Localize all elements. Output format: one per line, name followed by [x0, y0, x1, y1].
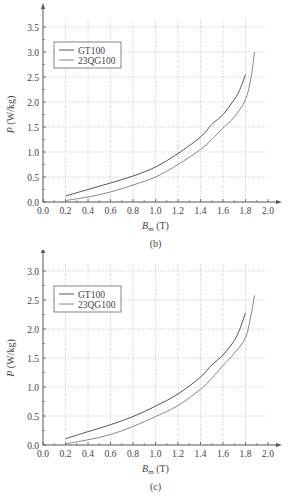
y-axis-label: P (W/kg) — [5, 96, 17, 135]
y-axis-label-unit: (W/kg) — [5, 339, 17, 370]
legend-label: GT100 — [78, 290, 105, 300]
x-tick-label: 0.0 — [37, 206, 49, 216]
x-tick-label: 1.0 — [150, 206, 162, 216]
x-axis-label-unit: (T) — [154, 463, 169, 475]
y-axis-label-symbol: P — [5, 127, 16, 134]
chart-panel-c: 0.00.20.40.60.81.01.21.41.61.82.00.00.51… — [0, 250, 294, 500]
x-tick-label: 1.2 — [172, 449, 184, 459]
chart-b-canvas: 0.00.20.40.60.81.01.21.41.61.82.00.00.51… — [0, 0, 294, 250]
x-tick-label: 1.6 — [217, 449, 229, 459]
y-tick-label: 0.0 — [27, 441, 39, 451]
x-axis-arrow-icon — [276, 200, 282, 204]
legend-label: 23QG100 — [78, 56, 116, 66]
legend: GT10023QG100 — [54, 286, 121, 312]
x-tick-label: 1.6 — [217, 206, 229, 216]
y-tick-label: 2.5 — [27, 296, 39, 306]
x-tick-label: 1.4 — [195, 206, 207, 216]
legend-label: GT100 — [78, 46, 105, 56]
x-tick-label: 0.6 — [105, 449, 117, 459]
x-tick-label: 1.8 — [240, 206, 252, 216]
x-tick-label: 0.0 — [37, 449, 49, 459]
x-tick-label: 2.0 — [262, 206, 274, 216]
x-tick-label: 0.4 — [82, 206, 94, 216]
x-tick-label: 1.0 — [150, 449, 162, 459]
chart-c-canvas: 0.00.20.40.60.81.01.21.41.61.82.00.00.51… — [0, 250, 294, 500]
y-axis-label-symbol: P — [5, 371, 16, 378]
y-axis-arrow-icon — [41, 3, 45, 9]
x-tick-label: 0.8 — [127, 206, 139, 216]
series-line-gt100 — [66, 75, 246, 197]
y-tick-label: 3.0 — [27, 267, 39, 277]
x-axis-label: Bm (T) — [142, 220, 169, 233]
y-tick-label: 3.0 — [27, 48, 39, 58]
y-tick-label: 0.5 — [27, 412, 39, 422]
y-tick-label: 2.0 — [27, 325, 39, 335]
x-tick-label: 1.8 — [240, 449, 252, 459]
y-tick-label: 1.5 — [27, 354, 39, 364]
legend-label: 23QG100 — [78, 300, 116, 310]
y-axis-label-unit: (W/kg) — [5, 96, 17, 127]
series-line-23qg100 — [66, 52, 255, 201]
legend: GT10023QG100 — [54, 42, 121, 68]
x-tick-label: 0.2 — [60, 449, 72, 459]
y-tick-label: 0.5 — [27, 173, 39, 183]
y-axis-arrow-icon — [41, 250, 45, 253]
y-tick-label: 2.0 — [27, 98, 39, 108]
x-axis-label-unit: (T) — [154, 220, 169, 232]
x-tick-label: 2.0 — [262, 449, 274, 459]
y-tick-label: 0.0 — [27, 198, 39, 208]
x-tick-label: 0.6 — [105, 206, 117, 216]
y-tick-label: 1.0 — [27, 383, 39, 393]
x-axis-arrow-icon — [276, 443, 282, 447]
x-tick-label: 1.4 — [195, 449, 207, 459]
chart-panel-b: 0.00.20.40.60.81.01.21.41.61.82.00.00.51… — [0, 0, 294, 250]
y-tick-label: 1.0 — [27, 148, 39, 158]
x-tick-label: 0.8 — [127, 449, 139, 459]
y-tick-label: 2.5 — [27, 73, 39, 83]
x-axis-label: Bm (T) — [142, 463, 169, 476]
panel-label: (c) — [150, 481, 161, 493]
x-tick-label: 0.4 — [82, 449, 94, 459]
x-tick-label: 1.2 — [172, 206, 184, 216]
panel-label: (b) — [150, 238, 162, 250]
y-tick-label: 3.5 — [27, 23, 39, 33]
series-line-23qg100 — [66, 295, 255, 443]
y-axis-label: P (W/kg) — [5, 339, 17, 378]
y-tick-label: 1.5 — [27, 123, 39, 133]
x-tick-label: 0.2 — [60, 206, 72, 216]
